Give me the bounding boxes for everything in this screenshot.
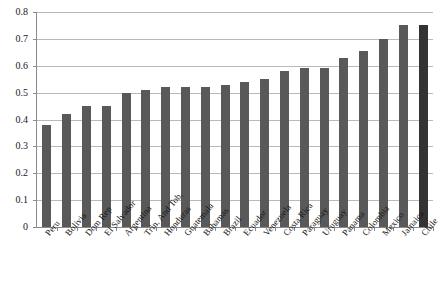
bar-slot [399,12,408,227]
y-axis: 00.10.20.30.40.50.60.70.8 [0,0,36,298]
bar-slot [339,12,348,227]
bar-slot [201,12,210,227]
bar-slot [102,12,111,227]
bar-slot [260,12,269,227]
bar-slot [221,12,230,227]
y-axis-tick-label: 0 [23,222,28,232]
bar [339,58,348,227]
bar-slot [419,12,428,227]
y-axis-tick-label: 0.7 [16,34,29,44]
y-axis-tick-label: 0.3 [16,141,29,151]
bar-slot [359,12,368,227]
bar [419,25,428,227]
bar [399,25,408,227]
bar [42,125,51,227]
y-axis-tick-label: 0.8 [16,7,29,17]
bar-slot [240,12,249,227]
bar [260,79,269,227]
plot-area [36,12,433,228]
bar-slot [62,12,71,227]
bar [359,51,368,227]
y-axis-tick-label: 0.6 [16,61,29,71]
bar [82,106,91,227]
bar [320,68,329,227]
bar-slot [141,12,150,227]
x-axis-category-labels: PeruBoliviaDom RepEl SalvadorArgentinaTr… [36,232,432,298]
y-axis-tick-label: 0.2 [16,168,29,178]
bar [240,82,249,227]
bar [379,39,388,227]
bar-slot [280,12,289,227]
bar-slot [122,12,131,227]
bar-slot [379,12,388,227]
bar-slot [300,12,309,227]
bar [62,114,71,227]
y-axis-tick-label: 0.1 [16,195,29,205]
bar-slot [42,12,51,227]
bar-slot [161,12,170,227]
y-axis-tick-label: 0.5 [16,88,29,98]
bar-slot [82,12,91,227]
y-axis-tick-label: 0.4 [16,115,29,125]
bar-slot [320,12,329,227]
bars-group [37,12,433,227]
